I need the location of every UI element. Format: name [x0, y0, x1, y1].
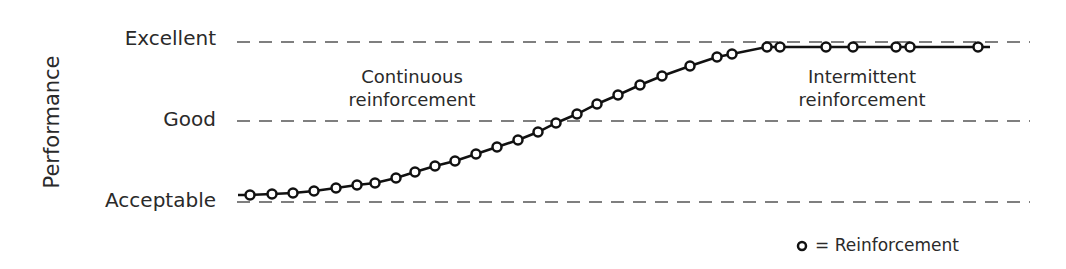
- reinforcement-marker: [776, 43, 785, 52]
- reinforcement-marker: [310, 187, 319, 196]
- reinforcement-marker: [289, 189, 298, 198]
- reinforcement-marker: [713, 53, 722, 62]
- reinforcement-marker: [268, 190, 277, 199]
- reinforcement-marker: [974, 43, 983, 52]
- reinforcement-marker: [686, 62, 695, 71]
- reinforcement-marker: [614, 91, 623, 100]
- reinforcement-marker: [514, 136, 523, 145]
- level-label-good: Good: [163, 107, 216, 131]
- reinforcement-marker: [892, 43, 901, 52]
- reinforcement-marker: [534, 128, 543, 137]
- legend-text: = Reinforcement: [815, 235, 959, 255]
- reinforcement-marker: [451, 157, 460, 166]
- reinforcement-marker: [763, 43, 772, 52]
- reinforcement-marker: [822, 43, 831, 52]
- reinforcement-marker: [849, 43, 858, 52]
- annotation-intermittent-line1: Intermittent: [808, 66, 916, 87]
- annotation-continuous-line1: Continuous: [361, 66, 463, 87]
- level-label-excellent: Excellent: [125, 26, 217, 50]
- legend-marker-icon: [798, 242, 806, 250]
- annotation-continuous-line2: reinforcement: [349, 89, 476, 110]
- reinforcement-marker: [573, 110, 582, 119]
- reinforcement-marker: [493, 143, 502, 152]
- annotation-intermittent-line2: reinforcement: [799, 89, 926, 110]
- y-axis-title: Performance: [40, 55, 64, 188]
- legend: = Reinforcement: [798, 235, 959, 255]
- reinforcement-marker: [246, 191, 255, 200]
- performance-chart: Performance Excellent Good Acceptable Co…: [0, 0, 1066, 269]
- reinforcement-marker: [636, 81, 645, 90]
- reinforcement-marker: [353, 181, 362, 190]
- reinforcement-marker: [472, 150, 481, 159]
- level-label-acceptable: Acceptable: [105, 188, 216, 212]
- reinforcement-marker: [593, 100, 602, 109]
- reinforcement-marker: [431, 162, 440, 171]
- reinforcement-marker: [332, 184, 341, 193]
- reinforcement-marker: [728, 50, 737, 59]
- reinforcement-marker: [906, 43, 915, 52]
- reinforcement-marker: [371, 179, 380, 188]
- reinforcement-marker: [392, 174, 401, 183]
- reinforcement-marker: [658, 72, 667, 81]
- reinforcement-marker: [552, 119, 561, 128]
- reinforcement-marker: [411, 168, 420, 177]
